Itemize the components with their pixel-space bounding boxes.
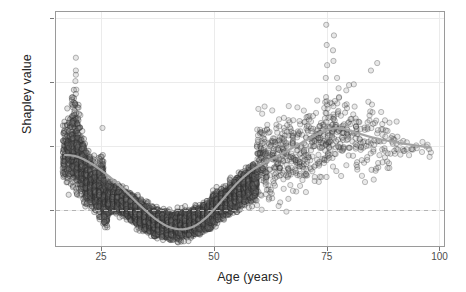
- x-tick-mark: [327, 247, 328, 251]
- x-tick-mark: [101, 247, 102, 251]
- shapley-age-scatter-plot: Shapley value Age (years) 0.00.30.60.9 2…: [0, 0, 466, 292]
- y-tick-mark: [50, 146, 54, 147]
- y-tick-mark: [50, 18, 54, 19]
- y-tick-mark: [50, 210, 54, 211]
- y-axis-title: Shapley value: [20, 14, 36, 174]
- x-tick-mark: [439, 247, 440, 251]
- x-tick-mark: [214, 247, 215, 251]
- scatter-canvas: [56, 12, 444, 246]
- x-axis-title: Age (years): [55, 270, 445, 284]
- plot-panel: [55, 11, 445, 247]
- y-tick-mark: [50, 82, 54, 83]
